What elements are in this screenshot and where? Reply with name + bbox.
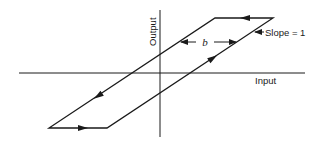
- width-label: b: [202, 36, 208, 48]
- arrow-left-icon: [240, 15, 250, 21]
- y-axis-label: Output: [147, 17, 158, 46]
- slope-label: Slope = 1: [265, 27, 305, 38]
- width-dimension: b: [181, 36, 236, 48]
- hysteresis-diagram: b Slope = 1 Input Output: [0, 0, 321, 149]
- x-axis-label: Input: [255, 75, 276, 86]
- slope-annotation: Slope = 1: [255, 27, 305, 38]
- arrow-right-icon: [78, 125, 88, 131]
